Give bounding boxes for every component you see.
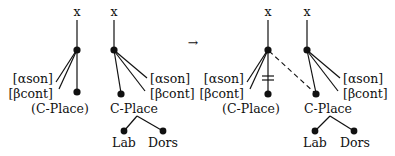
dors-association-line (137, 116, 163, 131)
root-x-label: x (264, 4, 271, 19)
feature-son-label: [αson] (13, 71, 53, 86)
feature-son-label: [αson] (343, 71, 383, 86)
right-tree-2: x [αson] [βcont] C-Place Lab Dors (303, 4, 387, 150)
root-x-label: x (73, 4, 80, 19)
c-place-label: C-Place (110, 101, 158, 116)
feature-cont-label: [βcont] (199, 86, 244, 101)
c-place-label: (C-Place) (31, 101, 89, 116)
place-association-line (114, 50, 121, 93)
root-x-label: x (303, 4, 310, 19)
lab-label: Lab (112, 135, 136, 150)
right-tree-1: x [αson] [βcont] (C-Place) (199, 4, 280, 116)
feature-cont-label: [βcont] (150, 86, 195, 101)
derivation-arrow-icon: → (188, 35, 199, 50)
dors-label: Dors (340, 135, 370, 150)
c-place-node (264, 90, 271, 97)
lab-node (121, 128, 128, 135)
root-x-label: x (110, 4, 117, 19)
lab-label: Lab (303, 135, 327, 150)
son-association-line (115, 51, 147, 78)
left-tree-2: x [αson] [βcont] C-Place Lab Dors (110, 4, 195, 150)
son-association-line (247, 51, 267, 82)
feature-son-label: [αson] (204, 71, 244, 86)
dors-association-line (330, 116, 354, 131)
cont-association-line (250, 52, 267, 89)
dors-node (160, 128, 167, 135)
c-place-node (312, 90, 319, 97)
c-place-node (73, 88, 80, 95)
c-place-node (117, 90, 124, 97)
cont-association-line (308, 52, 338, 91)
son-association-line (308, 51, 340, 78)
feature-cont-label: [βcont] (343, 86, 388, 101)
son-association-line (56, 51, 76, 82)
left-tree-1: x [αson] [βcont] (C-Place) (8, 4, 89, 116)
dors-node (351, 128, 358, 135)
feature-cont-label: [βcont] (8, 86, 53, 101)
feature-geometry-diagram: x [αson] [βcont] (C-Place) x [αson] [βco… (0, 0, 395, 156)
c-place-label: C-Place (304, 101, 352, 116)
c-place-label: (C-Place) (222, 101, 280, 116)
feature-son-label: [αson] (150, 71, 190, 86)
dors-label: Dors (148, 135, 178, 150)
lab-node (312, 128, 319, 135)
cont-association-line (59, 52, 76, 89)
